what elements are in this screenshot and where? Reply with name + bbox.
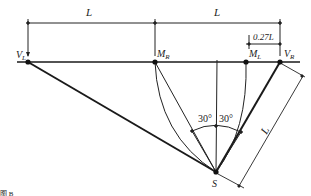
kinematic-diagram: L L 0.27L L bbox=[0, 0, 311, 196]
offset-label: 0.27L bbox=[253, 32, 274, 42]
caption-fragment: 图 B bbox=[0, 190, 14, 196]
label-v-right: VR bbox=[284, 48, 295, 61]
left-span-label: L bbox=[85, 6, 92, 18]
joint-m-left bbox=[243, 59, 248, 64]
joints bbox=[25, 59, 282, 174]
center-line bbox=[216, 60, 217, 172]
slant-label: L bbox=[257, 125, 271, 137]
joint-v-left bbox=[25, 59, 30, 64]
links bbox=[28, 62, 280, 172]
joint-m-right bbox=[152, 59, 157, 64]
joint-s bbox=[213, 169, 218, 174]
angle-right-label: 30° bbox=[219, 113, 233, 124]
right-span-label: L bbox=[213, 6, 220, 18]
label-m-right: MR bbox=[156, 48, 170, 61]
joint-v-right bbox=[277, 59, 282, 64]
label-v-left: VL bbox=[16, 49, 26, 62]
label-s: S bbox=[212, 178, 217, 189]
label-m-left: ML bbox=[248, 48, 261, 61]
angle-left-label: 30° bbox=[198, 113, 212, 124]
top-dimension bbox=[26, 19, 281, 57]
